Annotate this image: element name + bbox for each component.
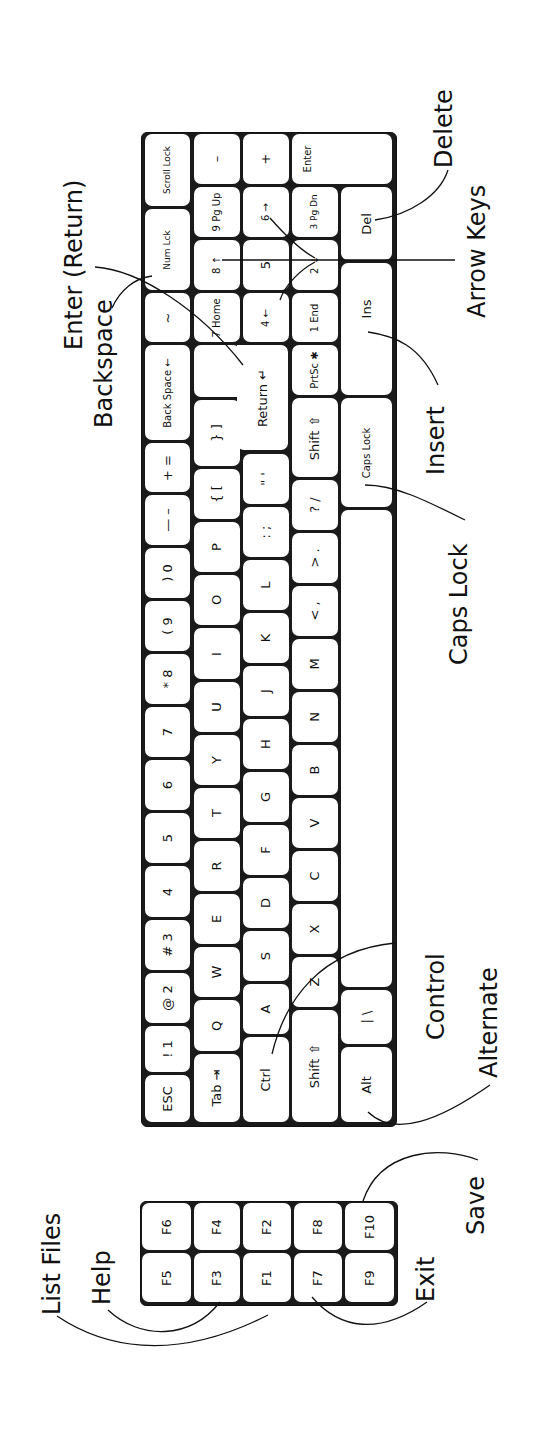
- key-k[interactable]: K: [243, 613, 289, 663]
- key-label: T: [210, 809, 224, 817]
- key-f8[interactable]: F8: [294, 1203, 342, 1250]
- key-label: 3 Pg Dn: [310, 194, 319, 229]
- key-f4[interactable]: F4: [194, 1203, 240, 1250]
- key-numpad-enter[interactable]: Enter: [292, 134, 392, 184]
- key-6[interactable]: 6: [145, 760, 190, 810]
- key-o[interactable]: O: [194, 575, 240, 625]
- key-1[interactable]: ! 1: [145, 1026, 190, 1072]
- key-f9[interactable]: F9: [345, 1253, 394, 1302]
- key-f6[interactable]: F6: [142, 1203, 191, 1250]
- key-equals[interactable]: + =: [145, 443, 190, 492]
- key-f2[interactable]: F2: [243, 1203, 291, 1250]
- key-left-shift[interactable]: Shift ⇧: [292, 1010, 338, 1122]
- key-ins[interactable]: Ins: [341, 263, 392, 395]
- key-return-upper[interactable]: [194, 345, 240, 397]
- key-s[interactable]: S: [243, 931, 289, 981]
- key-semicolon[interactable]: : ;: [243, 507, 289, 557]
- key-f3[interactable]: F3: [194, 1253, 240, 1302]
- key-quote[interactable]: " ': [243, 454, 289, 504]
- key-numpad-7[interactable]: 7 Home: [194, 293, 240, 342]
- key-p[interactable]: P: [194, 522, 240, 572]
- key-w[interactable]: W: [194, 947, 240, 997]
- key-tilde[interactable]: ~: [145, 293, 190, 342]
- key-f5[interactable]: F5: [142, 1253, 191, 1302]
- key-f10[interactable]: F10: [345, 1203, 394, 1250]
- key-r[interactable]: R: [194, 841, 240, 891]
- key-numpad-minus[interactable]: –: [194, 134, 240, 184]
- key-numpad-5[interactable]: 5: [243, 240, 289, 290]
- key-a[interactable]: A: [243, 984, 289, 1034]
- key-f[interactable]: F: [243, 825, 289, 875]
- key-left-bracket[interactable]: { [: [194, 469, 240, 519]
- key-num-lock[interactable]: Num Lck: [145, 209, 190, 290]
- key-label: ) 0: [161, 564, 175, 581]
- key-f1[interactable]: F1: [243, 1253, 291, 1302]
- key-label: F2: [260, 1219, 274, 1235]
- key-numpad-4[interactable]: 4 ←: [243, 293, 289, 342]
- key-9[interactable]: ( 9: [145, 601, 190, 651]
- key-f7[interactable]: F7: [294, 1253, 342, 1302]
- key-scroll-lock[interactable]: Scroll Lock: [145, 134, 190, 206]
- key-label: X: [308, 925, 322, 934]
- key-m[interactable]: M: [292, 639, 338, 689]
- key-y[interactable]: Y: [194, 735, 240, 785]
- key-label: A: [259, 1005, 273, 1014]
- key-x[interactable]: X: [292, 904, 338, 954]
- key-tab[interactable]: Tab ⇥: [194, 1054, 240, 1122]
- key-j[interactable]: J: [243, 666, 289, 716]
- key-label: J: [259, 689, 273, 693]
- key-h[interactable]: H: [243, 719, 289, 769]
- key-numpad-6[interactable]: 6 →: [243, 187, 289, 237]
- key-label: 7: [161, 728, 175, 736]
- key-numpad-9[interactable]: 9 Pg Up: [194, 187, 240, 237]
- key-label: 6: [161, 781, 175, 789]
- key-numpad-plus[interactable]: +: [243, 134, 289, 184]
- key-numpad-1[interactable]: 1 End: [292, 293, 338, 342]
- key-q[interactable]: Q: [194, 1000, 240, 1051]
- key-v[interactable]: V: [292, 798, 338, 848]
- key-del[interactable]: Del: [341, 187, 392, 260]
- key-alt[interactable]: Alt: [341, 1047, 392, 1122]
- key-minus[interactable]: — –: [145, 495, 190, 545]
- key-b[interactable]: B: [292, 745, 338, 795]
- key-z[interactable]: Z: [292, 957, 338, 1007]
- key-4[interactable]: 4: [145, 866, 190, 917]
- key-3[interactable]: # 3: [145, 920, 190, 970]
- key-t[interactable]: T: [194, 788, 240, 838]
- key-label: ( 9: [161, 617, 175, 634]
- key-backspace[interactable]: Back Space ←: [145, 345, 190, 440]
- key-i[interactable]: I: [194, 628, 240, 679]
- key-label: + =: [161, 455, 175, 481]
- key-numpad-3[interactable]: 3 Pg Dn: [292, 187, 338, 237]
- key-7[interactable]: 7: [145, 707, 190, 757]
- key-label: M: [308, 658, 322, 669]
- key-caps-lock[interactable]: Caps Lock: [341, 398, 392, 507]
- key-slash[interactable]: ? /: [292, 480, 338, 530]
- key-0[interactable]: ) 0: [145, 548, 190, 598]
- key-label: N: [308, 712, 322, 722]
- key-backslash[interactable]: | \: [341, 990, 392, 1044]
- key-8[interactable]: * 8: [145, 654, 190, 704]
- key-e[interactable]: E: [194, 894, 240, 944]
- key-ctrl[interactable]: Ctrl: [243, 1037, 289, 1122]
- key-label: — –: [161, 508, 175, 532]
- key-right-shift[interactable]: Shift ⇧: [292, 398, 338, 477]
- key-n[interactable]: N: [292, 692, 338, 742]
- key-2[interactable]: @ 2: [145, 973, 190, 1023]
- key-d[interactable]: D: [243, 878, 289, 928]
- key-5[interactable]: 5: [145, 813, 190, 863]
- key-period[interactable]: > .: [292, 533, 338, 583]
- key-c[interactable]: C: [292, 851, 338, 901]
- key-right-bracket[interactable]: } ]: [194, 400, 240, 466]
- key-label: < ,: [308, 601, 322, 620]
- key-prtsc[interactable]: PrtSc ✱: [292, 345, 338, 395]
- key-comma[interactable]: < ,: [292, 586, 338, 636]
- key-u[interactable]: U: [194, 682, 240, 732]
- key-numpad-2[interactable]: 2 ↓: [292, 240, 338, 290]
- key-numpad-8[interactable]: 8 ↑: [194, 240, 240, 290]
- key-space-bar[interactable]: [341, 510, 392, 987]
- key-esc[interactable]: ESC: [145, 1075, 190, 1122]
- key-g[interactable]: G: [243, 772, 289, 822]
- key-return[interactable]: Return ↵: [237, 345, 288, 450]
- key-l[interactable]: L: [243, 560, 289, 610]
